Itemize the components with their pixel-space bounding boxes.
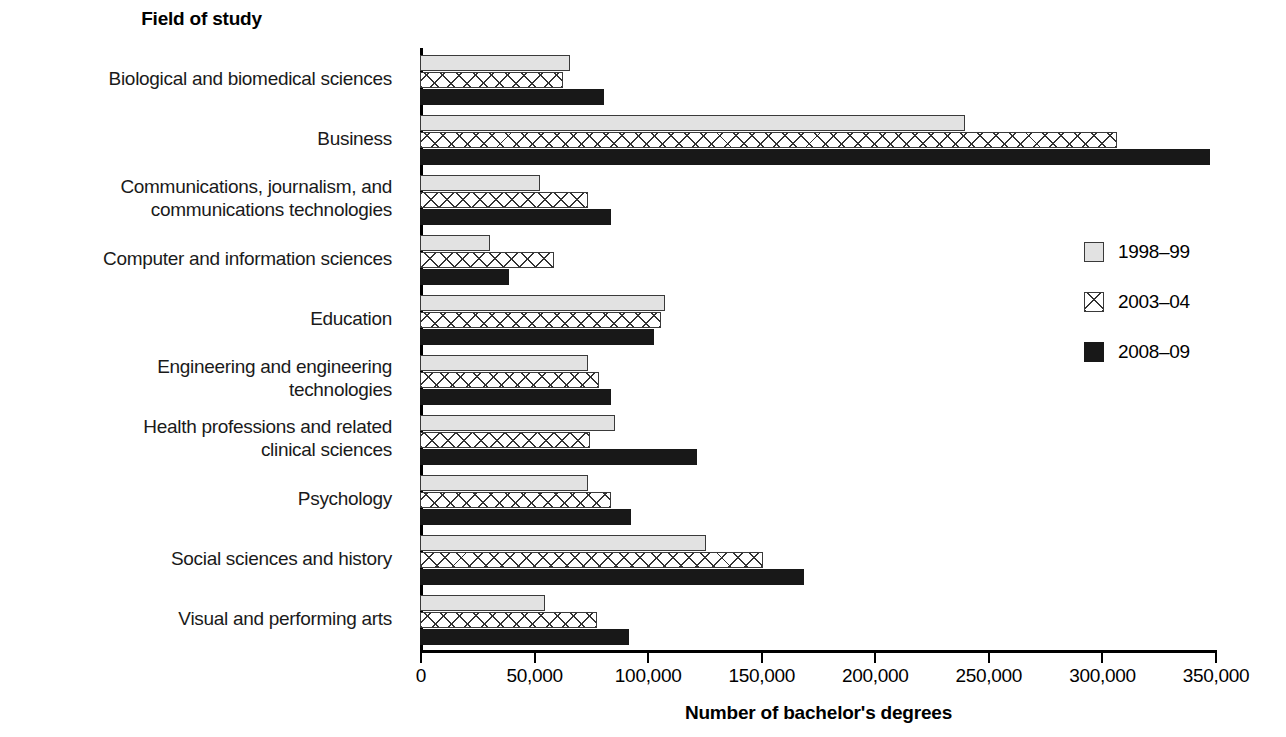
- legend-swatch-icon: [1084, 242, 1104, 262]
- bar: [420, 209, 611, 225]
- x-tick: [1215, 653, 1217, 663]
- category-label-line: communications technologies: [0, 198, 392, 221]
- bar: [420, 475, 588, 491]
- x-tick-label: 350,000: [1183, 665, 1250, 687]
- category-label-line: Communications, journalism, and: [0, 175, 392, 198]
- category-label: Psychology: [0, 487, 404, 510]
- category-label: Health professions and relatedclinical s…: [0, 415, 404, 461]
- category-label-line: clinical sciences: [0, 438, 392, 461]
- bar: [420, 235, 490, 251]
- bar: [420, 372, 599, 388]
- bar: [420, 115, 965, 131]
- x-tick: [647, 653, 649, 663]
- category-label: Engineering and engineeringtechnologies: [0, 355, 404, 401]
- bar: [420, 449, 697, 465]
- category-label-line: Engineering and engineering: [0, 355, 392, 378]
- bar: [420, 355, 588, 371]
- bar: [420, 89, 604, 105]
- bar: [420, 149, 1210, 165]
- bar: [420, 629, 629, 645]
- x-axis-line: [420, 650, 1217, 653]
- x-tick: [761, 653, 763, 663]
- bar: [420, 389, 611, 405]
- category-label: Social sciences and history: [0, 547, 404, 570]
- bar: [420, 612, 597, 628]
- x-tick-label: 50,000: [506, 665, 562, 687]
- x-tick-label: 300,000: [1069, 665, 1136, 687]
- legend-item: 1998–99: [1084, 240, 1264, 264]
- legend-label: 2008–09: [1118, 341, 1190, 363]
- category-label: Communications, journalism, andcommunica…: [0, 175, 404, 221]
- bar: [420, 295, 665, 311]
- category-label-line: Health professions and related: [0, 415, 392, 438]
- bar: [420, 132, 1117, 148]
- legend-item: 2003–04: [1084, 290, 1264, 314]
- x-axis-title: Number of bachelor's degrees: [420, 702, 1217, 724]
- bar: [420, 269, 509, 285]
- category-label-line: Social sciences and history: [0, 547, 392, 570]
- bar: [420, 535, 706, 551]
- legend-swatch-icon: [1084, 292, 1104, 312]
- bar-chart: Field of study 050,000100,000150,000200,…: [0, 0, 1286, 737]
- category-label: Business: [0, 127, 404, 150]
- bar: [420, 415, 615, 431]
- legend-swatch-icon: [1084, 342, 1104, 362]
- category-label-line: Business: [0, 127, 392, 150]
- category-label-line: Computer and information sciences: [0, 247, 392, 270]
- category-label: Education: [0, 307, 404, 330]
- bar: [420, 192, 588, 208]
- bar: [420, 492, 611, 508]
- field-of-study-title: Field of study: [0, 8, 403, 30]
- bar: [420, 595, 545, 611]
- bar: [420, 312, 661, 328]
- x-tick: [988, 653, 990, 663]
- category-label: Visual and performing arts: [0, 607, 404, 630]
- x-tick: [420, 653, 422, 663]
- legend-label: 1998–99: [1118, 241, 1190, 263]
- bar: [420, 569, 804, 585]
- bar: [420, 432, 590, 448]
- category-label-line: Visual and performing arts: [0, 607, 392, 630]
- x-tick-label: 0: [416, 665, 426, 687]
- category-label: Biological and biomedical sciences: [0, 67, 404, 90]
- bar: [420, 252, 554, 268]
- bar: [420, 55, 570, 71]
- category-label-line: Psychology: [0, 487, 392, 510]
- x-tick-label: 100,000: [615, 665, 682, 687]
- bar: [420, 329, 654, 345]
- legend-label: 2003–04: [1118, 291, 1190, 313]
- category-label-line: Biological and biomedical sciences: [0, 67, 392, 90]
- x-tick: [534, 653, 536, 663]
- x-tick: [1101, 653, 1103, 663]
- chart-legend: 1998–992003–042008–09: [1084, 240, 1264, 390]
- category-label-line: Education: [0, 307, 392, 330]
- x-tick: [874, 653, 876, 663]
- bar: [420, 552, 763, 568]
- bar: [420, 175, 540, 191]
- x-tick-label: 250,000: [956, 665, 1023, 687]
- x-tick-label: 200,000: [842, 665, 909, 687]
- category-label: Computer and information sciences: [0, 247, 404, 270]
- legend-item: 2008–09: [1084, 340, 1264, 364]
- bar: [420, 509, 631, 525]
- x-tick-label: 150,000: [728, 665, 795, 687]
- bar: [420, 72, 563, 88]
- category-label-line: technologies: [0, 378, 392, 401]
